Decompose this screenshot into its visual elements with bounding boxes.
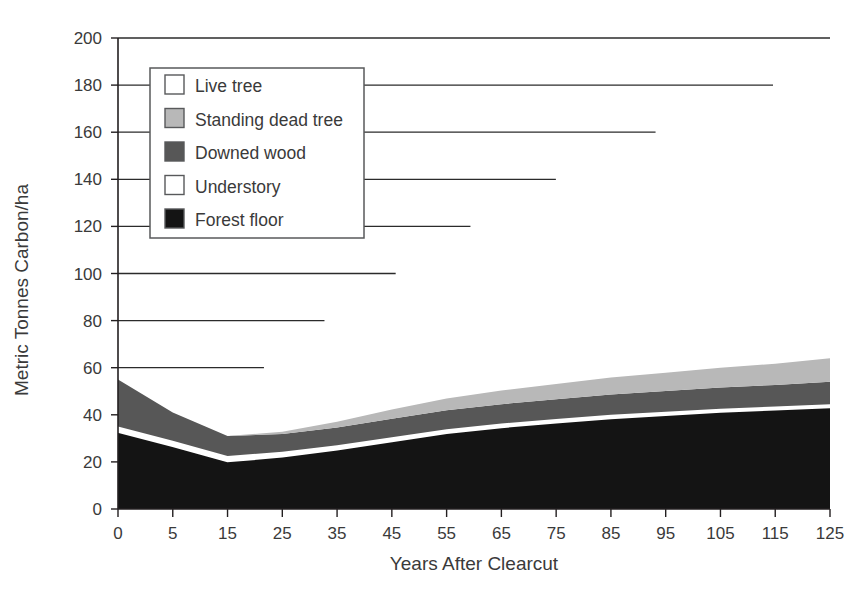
x-tick-label: 95	[656, 524, 675, 543]
legend[interactable]: Live treeStanding dead treeDowned woodUn…	[150, 68, 364, 238]
y-tick-label: 40	[83, 406, 102, 425]
x-axis-title: Years After Clearcut	[390, 553, 559, 574]
legend-swatch-understory[interactable]	[165, 176, 184, 195]
x-axis-tick-group: 05152535455565758595105115125	[113, 509, 844, 543]
y-tick-label: 120	[74, 217, 102, 236]
x-tick-label: 0	[113, 524, 122, 543]
x-tick-label: 125	[816, 524, 844, 543]
legend-label-downed-wood: Downed wood	[195, 143, 306, 163]
legend-label-forest-floor: Forest floor	[195, 210, 284, 230]
stacked-area-group	[118, 358, 830, 509]
legend-swatch-downed-wood[interactable]	[165, 142, 184, 161]
y-tick-label: 200	[74, 29, 102, 48]
legend-label-standing-dead-tree: Standing dead tree	[195, 110, 343, 130]
y-tick-label: 80	[83, 312, 102, 331]
y-axis-title: Metric Tonnes Carbon/ha	[11, 184, 32, 396]
x-tick-label: 25	[273, 524, 292, 543]
y-tick-label: 160	[74, 123, 102, 142]
x-tick-label: 65	[492, 524, 511, 543]
legend-swatch-standing-dead-tree[interactable]	[165, 109, 184, 128]
legend-label-understory: Understory	[195, 177, 281, 197]
legend-swatch-live-tree[interactable]	[165, 75, 184, 94]
y-tick-label: 180	[74, 76, 102, 95]
y-tick-label: 20	[83, 453, 102, 472]
x-tick-label: 15	[218, 524, 237, 543]
stacked-area-chart-figure: 020406080100120140160180200 051525354555…	[0, 0, 857, 597]
x-tick-label: 35	[328, 524, 347, 543]
y-axis-tick-group: 020406080100120140160180200	[74, 29, 118, 519]
x-tick-label: 115	[762, 524, 789, 543]
y-tick-label: 100	[74, 265, 102, 284]
x-tick-label: 85	[601, 524, 620, 543]
legend-swatch-forest-floor[interactable]	[165, 209, 184, 228]
x-tick-label: 5	[168, 524, 177, 543]
x-tick-label: 105	[706, 524, 734, 543]
y-tick-label: 0	[93, 500, 102, 519]
x-tick-label: 45	[382, 524, 401, 543]
y-tick-label: 140	[74, 170, 102, 189]
chart-canvas: 020406080100120140160180200 051525354555…	[0, 0, 857, 597]
y-tick-label: 60	[83, 359, 102, 378]
legend-label-live-tree: Live tree	[195, 76, 262, 96]
x-tick-label: 75	[547, 524, 566, 543]
x-tick-label: 55	[437, 524, 456, 543]
